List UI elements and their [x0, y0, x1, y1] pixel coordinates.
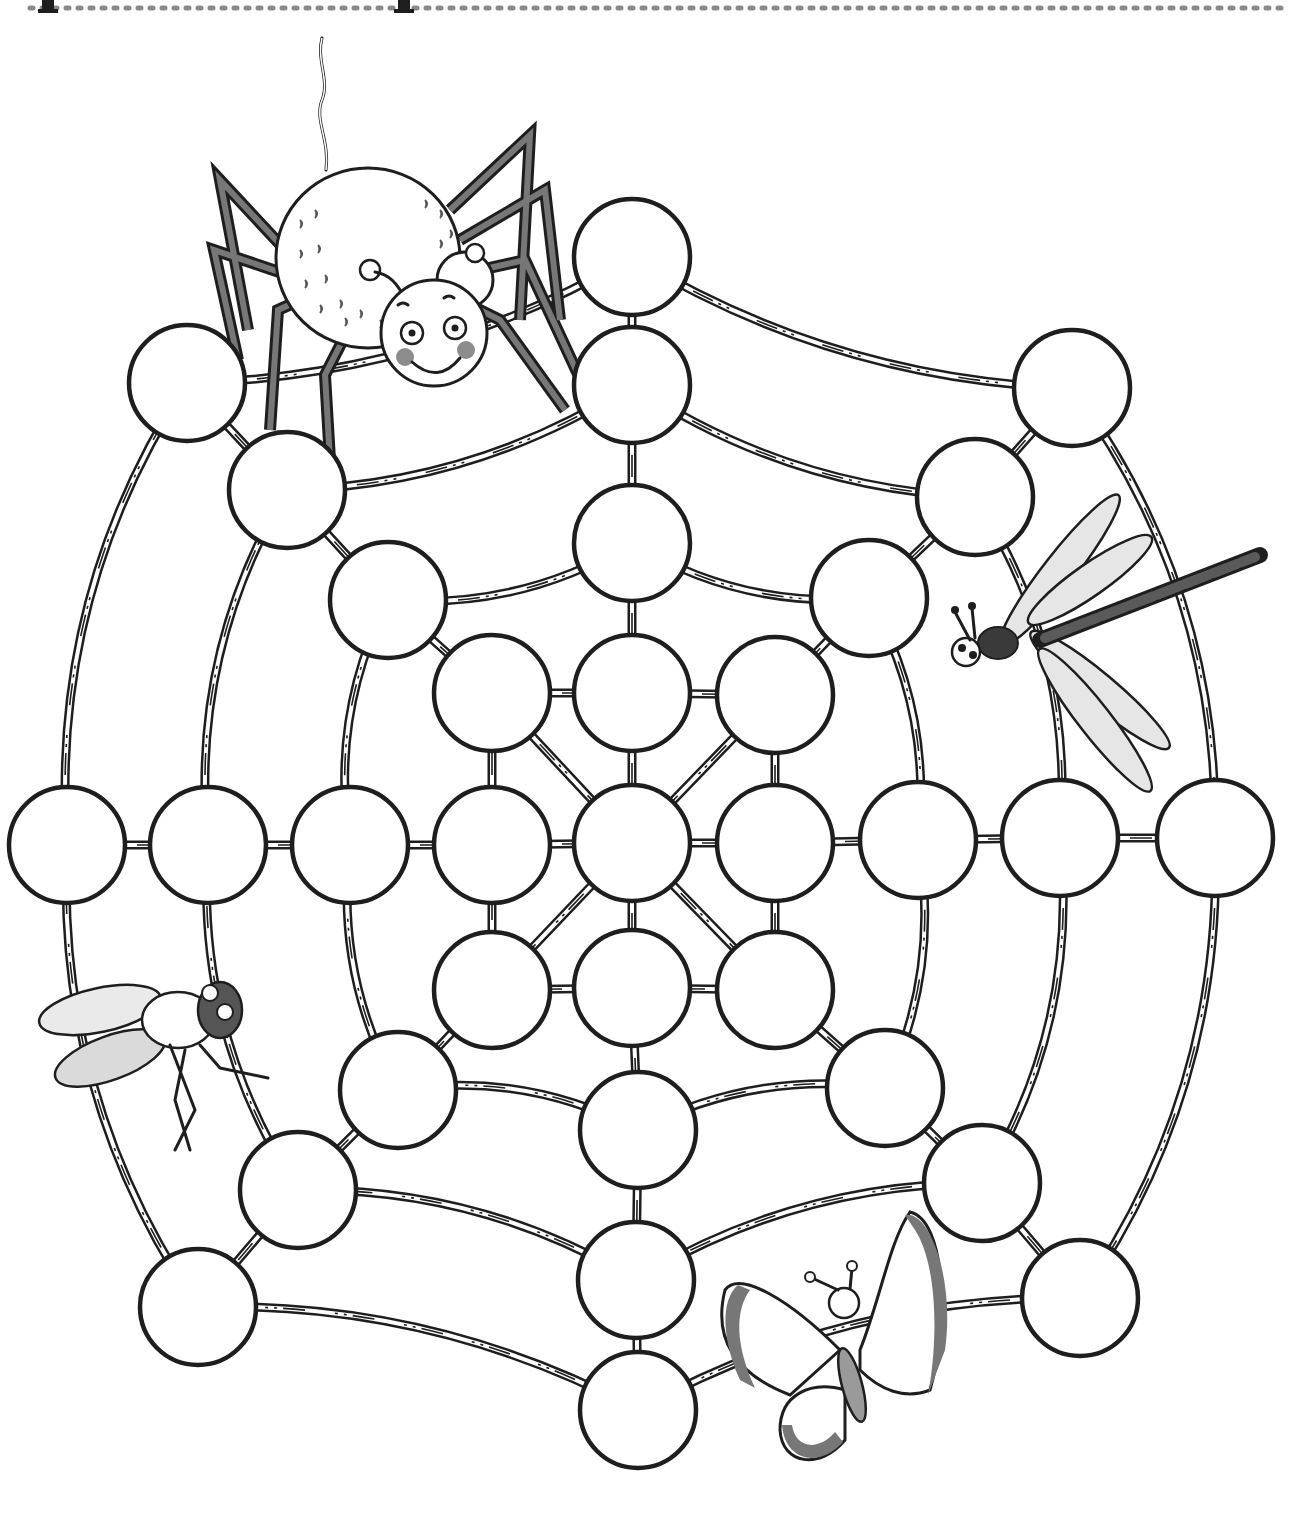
spider-web-board: [0, 0, 1298, 1527]
web-strand: [198, 1307, 638, 1410]
web-circle-c12[interactable]: [330, 542, 446, 658]
spider-face: [381, 280, 487, 386]
web-strand: [632, 257, 1072, 388]
web-circle-c11[interactable]: [229, 432, 345, 548]
web-circle-c14[interactable]: [1014, 330, 1130, 446]
web-circle-c10[interactable]: [129, 325, 245, 441]
web-circle-c26[interactable]: [434, 932, 550, 1048]
web-circle-c17[interactable]: [717, 637, 833, 753]
web-circle-c5[interactable]: [574, 785, 690, 901]
web-circle-c22[interactable]: [717, 785, 833, 901]
web-circle-c32[interactable]: [140, 1249, 256, 1365]
web-circle-c24[interactable]: [1002, 780, 1118, 896]
web-strand: [1080, 838, 1216, 1298]
web-strand: [1080, 838, 1216, 1298]
web-circle-c6[interactable]: [574, 930, 690, 1046]
web-circle-c19[interactable]: [150, 787, 266, 903]
web-circle-c1[interactable]: [574, 199, 690, 315]
header-rule: [30, 0, 1290, 13]
web-circle-c27[interactable]: [717, 932, 833, 1048]
game-circles: [9, 199, 1273, 1468]
web-circle-c18[interactable]: [9, 787, 125, 903]
web-strand: [1080, 838, 1216, 1298]
web-circle-c31[interactable]: [924, 1125, 1040, 1241]
web-circle-c25[interactable]: [1157, 780, 1273, 896]
web-circle-c3[interactable]: [574, 485, 690, 601]
web-circle-c9[interactable]: [580, 1352, 696, 1468]
web-circle-c33[interactable]: [1022, 1240, 1138, 1356]
web-circle-c23[interactable]: [860, 782, 976, 898]
web-circle-c2[interactable]: [574, 327, 690, 443]
web-strand: [198, 1307, 638, 1410]
web-strand: [632, 257, 1072, 388]
web-circle-c21[interactable]: [434, 787, 550, 903]
butterfly-illustration: [722, 1212, 948, 1460]
web-circle-c15[interactable]: [917, 439, 1033, 555]
web-strand: [65, 383, 187, 845]
spider-illustration: [214, 38, 590, 460]
web-circle-c29[interactable]: [827, 1030, 943, 1146]
web-circle-c20[interactable]: [292, 787, 408, 903]
web-circle-c8[interactable]: [578, 1222, 694, 1338]
web-strand: [198, 1307, 638, 1410]
web-circle-c28[interactable]: [340, 1032, 456, 1148]
web-circle-c30[interactable]: [240, 1132, 356, 1248]
web-strand: [632, 257, 1072, 388]
web-circle-c7[interactable]: [580, 1072, 696, 1188]
web-circle-c16[interactable]: [811, 540, 927, 656]
web-circle-c13[interactable]: [434, 635, 550, 751]
web-circle-c4[interactable]: [574, 635, 690, 751]
